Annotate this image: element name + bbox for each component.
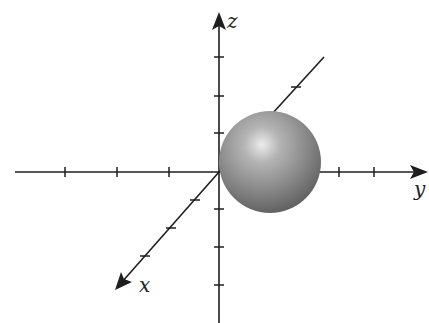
z-axis-label: z — [226, 9, 238, 33]
x-axis-label: x — [139, 273, 150, 297]
coordinate-diagram: z y x — [0, 0, 429, 323]
sphere — [219, 111, 321, 213]
y-axis-label: y — [413, 177, 426, 201]
x-axis — [115, 172, 219, 290]
